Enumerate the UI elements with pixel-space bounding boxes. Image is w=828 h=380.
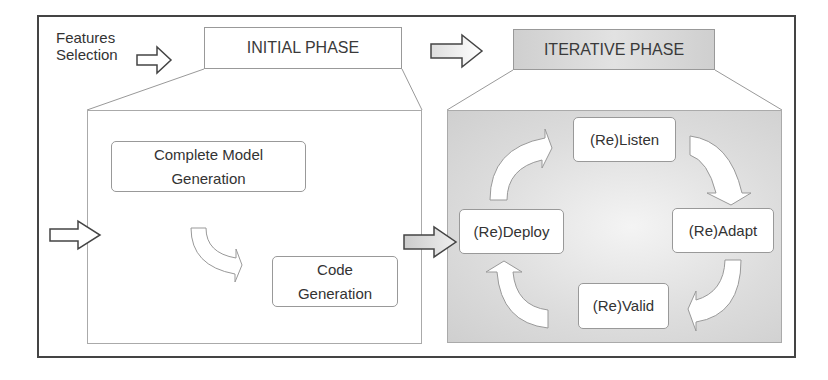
phase-transition-arrow-icon [431, 35, 482, 67]
node-label: (Re)Deploy [474, 220, 550, 244]
complete-model-generation-node: Complete Model Generation [111, 141, 306, 192]
revalid-node: (Re)Valid [578, 283, 669, 329]
cycle-arrow-down-right-icon [690, 136, 751, 205]
relisten-node: (Re)Listen [573, 117, 676, 162]
node-label: (Re)Adapt [689, 219, 757, 243]
cycle-arrow-down-left-icon [688, 260, 741, 331]
redeploy-node: (Re)Deploy [459, 209, 564, 254]
node-label: Complete Model [154, 143, 263, 167]
readapt-node: (Re)Adapt [672, 208, 774, 253]
cycle-arrow-up-right-icon [490, 129, 552, 200]
node-label: Code [298, 258, 372, 282]
deploy-input-arrow-icon [404, 227, 456, 257]
features-arrow-icon [137, 47, 171, 73]
node-label: (Re)Listen [590, 128, 659, 152]
node-label: Generation [154, 167, 263, 191]
curved-arrow-icon [191, 228, 242, 282]
input-arrow-icon [50, 221, 100, 249]
code-generation-node: Code Generation [272, 256, 398, 307]
node-label: Generation [298, 282, 372, 306]
cycle-arrow-up-left-icon [486, 261, 548, 328]
node-label: (Re)Valid [593, 294, 654, 318]
